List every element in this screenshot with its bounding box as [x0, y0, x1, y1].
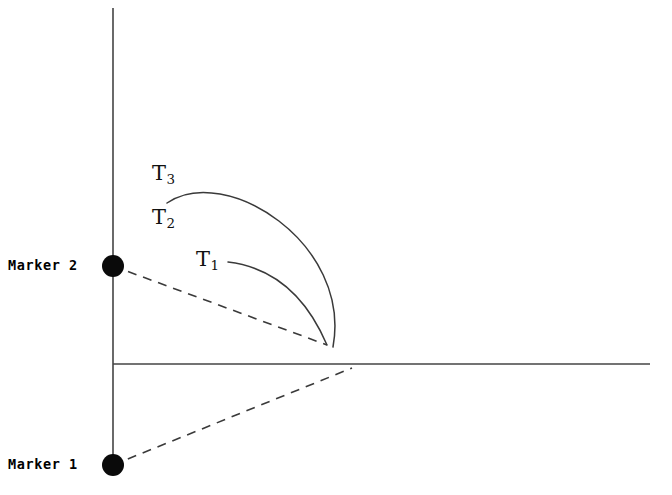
arc-t1	[228, 262, 327, 345]
marker-2-label: Marker 2	[8, 259, 78, 273]
t1-label: T1	[196, 249, 219, 273]
t1-subscript: 1	[210, 258, 219, 273]
diagram-canvas: Marker 2 Marker 1 T3 T2 T1	[0, 0, 672, 495]
arc-t2-t3	[167, 193, 335, 347]
t2-base: T	[152, 205, 166, 229]
t3-subscript: 3	[166, 172, 175, 187]
dashed-ray-marker-1	[113, 368, 352, 465]
t3-base: T	[152, 161, 166, 185]
t3-label: T3	[152, 163, 175, 187]
marker-dot-1	[102, 454, 124, 476]
marker-1-label: Marker 1	[8, 458, 78, 472]
marker-dot-2	[102, 255, 124, 277]
diagram-svg	[0, 0, 672, 495]
t1-base: T	[196, 247, 210, 271]
dashed-ray-marker-2	[113, 266, 327, 345]
t2-subscript: 2	[166, 216, 175, 231]
t2-label: T2	[152, 207, 175, 231]
